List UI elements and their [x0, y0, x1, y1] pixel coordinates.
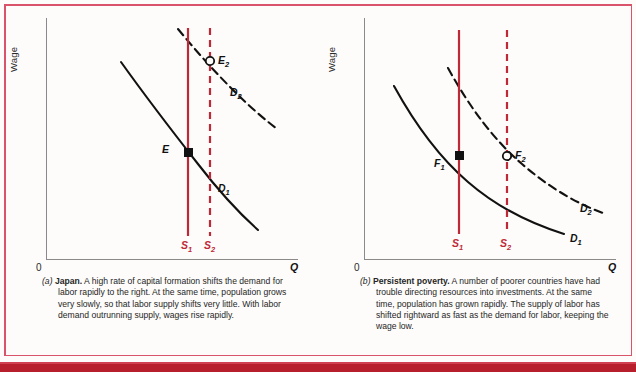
curve-label-d2-b: D2 — [580, 202, 592, 217]
caption-index-a: (a) — [42, 276, 53, 286]
x-axis-label-a: Q — [290, 261, 298, 273]
plot-area-b: Wage 0 Q D2 D1 — [364, 18, 616, 260]
origin-label-b: 0 — [354, 262, 360, 273]
bottom-color-band-highlight — [0, 362, 636, 364]
point-label-e-a: E — [162, 143, 169, 158]
marker-f2-b — [503, 152, 511, 160]
marker-e-a — [184, 148, 193, 157]
marker-e2-a — [206, 57, 214, 65]
curve-label-s1-b: S1 — [452, 237, 463, 252]
panel-a: Wage 0 Q D2 D1 — [0, 0, 318, 372]
origin-label-a: 0 — [36, 262, 42, 273]
curve-label-s2-b: S2 — [500, 237, 511, 252]
point-label-f1-b: F1 — [434, 157, 445, 172]
y-axis-label-b: Wage — [326, 0, 337, 24]
curve-label-d1-a: D1 — [218, 182, 230, 197]
curve-d1-b — [394, 86, 564, 234]
caption-a: (a) Japan. A high rate of capital format… — [42, 276, 294, 321]
point-label-e2-a: E2 — [218, 54, 229, 69]
marker-f1-b — [455, 151, 464, 160]
figure-container: Wage 0 Q D2 D1 — [0, 0, 636, 372]
caption-body-a: A high rate of capital formation shifts … — [58, 276, 286, 320]
caption-lead-b: Persistent poverty. — [373, 276, 450, 286]
curves-svg-a — [46, 18, 298, 260]
x-axis-label-b: Q — [608, 261, 616, 273]
curve-label-d1-b: D1 — [570, 232, 582, 247]
caption-lead-a: Japan. — [55, 276, 82, 286]
curve-label-s2-a: S2 — [204, 239, 215, 254]
point-label-f2-b: F2 — [515, 149, 526, 164]
y-axis-label-text-a: Wage — [8, 47, 19, 72]
curves-svg-b — [364, 18, 616, 260]
caption-index-b: (b) — [360, 276, 371, 286]
plot-area-a: Wage 0 Q D2 D1 — [46, 18, 298, 260]
curve-d2-a — [178, 29, 277, 129]
curve-label-d2-a: D2 — [230, 86, 242, 101]
y-axis-label-text-b: Wage — [326, 47, 337, 72]
curve-label-s1-a: S1 — [181, 239, 192, 254]
curve-d2-b — [448, 68, 606, 214]
caption-b: (b) Persistent poverty. A number of poor… — [360, 276, 612, 332]
panel-b: Wage 0 Q D2 D1 — [318, 0, 636, 372]
y-axis-label-a: Wage — [8, 0, 19, 24]
